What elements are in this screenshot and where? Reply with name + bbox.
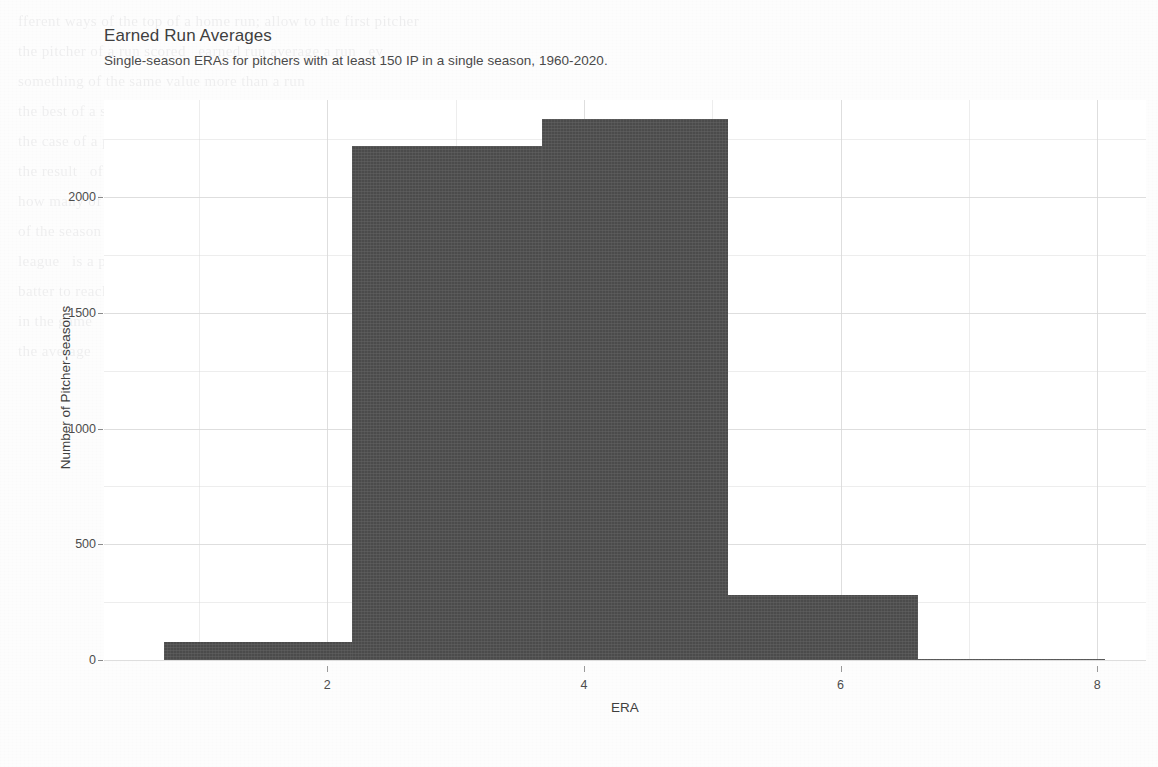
histogram-bar <box>164 642 351 660</box>
y-tick-label: 500 <box>75 537 96 551</box>
y-tick-label: 0 <box>89 653 96 667</box>
histogram-bar <box>352 146 542 660</box>
x-axis-title: ERA <box>104 700 1146 715</box>
x-tick-mark <box>584 666 585 672</box>
histogram-bar <box>918 659 1105 660</box>
gridline-minor-vertical <box>199 100 200 660</box>
y-axis-title: Number of Pitcher-seasons <box>58 108 73 668</box>
y-tick-mark <box>98 544 103 545</box>
chart-subtitle: Single-season ERAs for pitchers with at … <box>104 53 904 68</box>
x-tick-label: 6 <box>837 678 844 692</box>
scanned-page: fferent ways of the top of a home run; a… <box>0 0 1158 767</box>
x-tick-mark <box>327 666 328 672</box>
gridline-major-vertical <box>327 100 328 660</box>
y-tick-mark <box>98 313 103 314</box>
x-tick-mark <box>841 666 842 672</box>
x-tick-label: 2 <box>324 678 331 692</box>
gridline-major-vertical <box>1097 100 1098 660</box>
gridline-major-horizontal <box>104 660 1146 661</box>
gridline-major-vertical <box>841 100 842 660</box>
y-tick-mark <box>98 429 103 430</box>
x-axis-tick-labels: 2468 <box>104 666 1146 696</box>
x-tick-label: 8 <box>1094 678 1101 692</box>
x-tick-mark <box>1097 666 1098 672</box>
histogram-bar <box>728 595 918 660</box>
chart-header: Earned Run Averages Single-season ERAs f… <box>104 26 904 68</box>
x-tick-label: 4 <box>580 678 587 692</box>
y-tick-mark <box>98 197 103 198</box>
plot-panel <box>104 100 1146 660</box>
gridline-minor-vertical <box>969 100 970 660</box>
histogram-bar <box>542 119 728 660</box>
y-tick-mark <box>98 660 103 661</box>
chart-title: Earned Run Averages <box>104 26 904 46</box>
